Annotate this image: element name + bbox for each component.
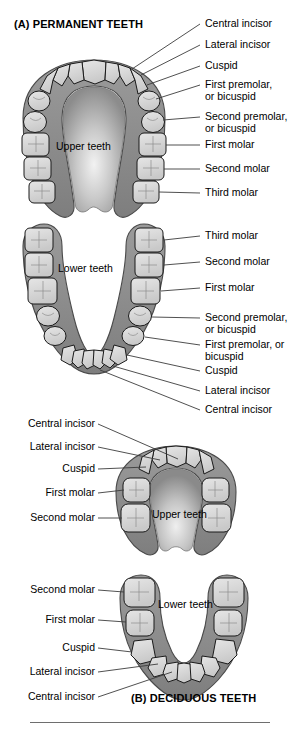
label-permanent-upper-central-incisor: Central incisor <box>205 18 272 30</box>
label-permanent-upper-first-molar: First molar <box>205 139 255 151</box>
label-permanent-upper-second-molar: Second molar <box>205 163 270 175</box>
label-permanent-lower-lateral-incisor: Lateral incisor <box>205 385 270 397</box>
label-permanent-lower-first-premolar: First premolar, or bicuspid <box>205 339 284 362</box>
label-permanent-upper-lateral-incisor: Lateral incisor <box>205 39 270 51</box>
label-deciduous-lower-cuspid: Cuspid <box>0 642 95 654</box>
label-permanent-lower-second-premolar: Second premolar, or bicuspid <box>205 312 287 335</box>
label-permanent-lower-second-molar: Second molar <box>205 256 270 268</box>
label-permanent-lower-third-molar: Third molar <box>205 230 258 242</box>
permanent-lower-caption: Lower teeth <box>58 262 113 274</box>
leader-lines <box>98 24 200 697</box>
label-deciduous-lower-central-incisor: Central incisor <box>0 691 95 703</box>
permanent-lower-arch <box>23 224 165 374</box>
permanent-upper-caption: Upper teeth <box>56 140 111 152</box>
deciduous-lower-caption: Lower teeth <box>158 598 213 610</box>
label-deciduous-lower-second-molar: Second molar <box>0 584 95 596</box>
deciduous-upper-arch <box>116 446 236 555</box>
label-deciduous-upper-lateral-incisor: Lateral incisor <box>0 441 95 453</box>
label-permanent-lower-central-incisor: Central incisor <box>205 404 272 416</box>
footer-divider <box>30 722 270 723</box>
deciduous-upper-caption: Upper teeth <box>152 508 207 520</box>
label-permanent-lower-cuspid: Cuspid <box>205 365 238 377</box>
label-deciduous-upper-second-molar: Second molar <box>0 512 95 524</box>
panel-a-title: (A) PERMANENT TEETH <box>14 18 143 30</box>
label-permanent-upper-cuspid: Cuspid <box>205 60 238 72</box>
label-deciduous-upper-first-molar: First molar <box>0 487 95 499</box>
label-deciduous-lower-lateral-incisor: Lateral incisor <box>0 666 95 678</box>
permanent-upper-arch <box>22 60 166 217</box>
label-deciduous-upper-central-incisor: Central incisor <box>0 418 95 430</box>
label-deciduous-upper-cuspid: Cuspid <box>0 463 95 475</box>
dental-anatomy-figure: (A) PERMANENT TEETH Upper teeth Lower te… <box>0 0 302 732</box>
deciduous-lower-arch <box>120 575 248 700</box>
label-permanent-upper-first-premolar: First premolar, or bicuspid <box>205 79 272 102</box>
panel-b-title: (B) DECIDUOUS TEETH <box>131 692 256 704</box>
label-permanent-lower-first-molar: First molar <box>205 282 255 294</box>
label-permanent-upper-second-premolar: Second premolar, or bicuspid <box>205 111 287 134</box>
label-permanent-upper-third-molar: Third molar <box>205 187 258 199</box>
label-deciduous-lower-first-molar: First molar <box>0 614 95 626</box>
